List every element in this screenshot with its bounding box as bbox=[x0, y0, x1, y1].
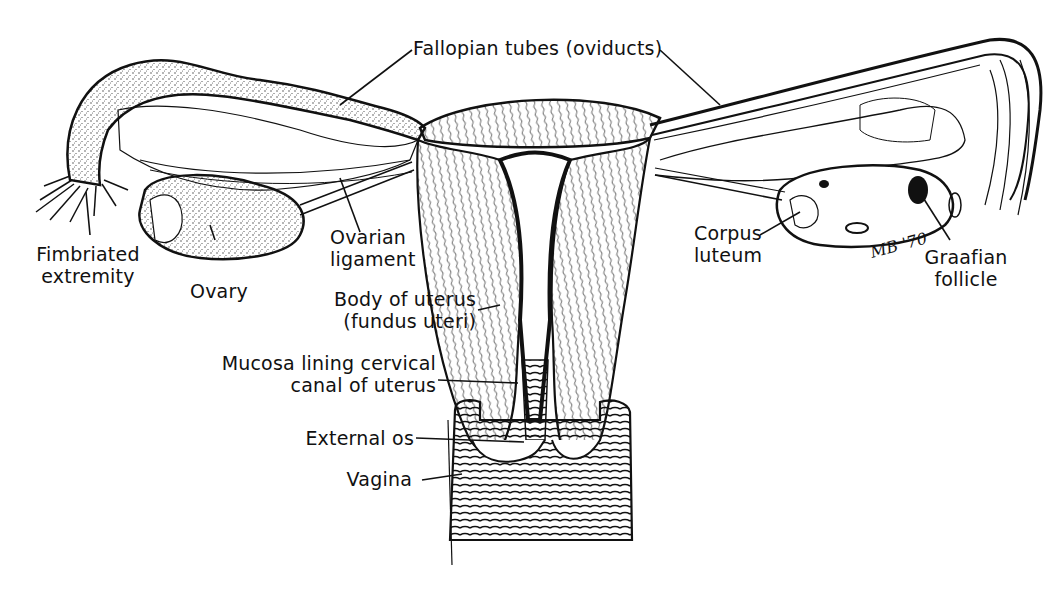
vagina-structure bbox=[450, 400, 632, 540]
label-line-2: extremity bbox=[28, 265, 148, 287]
anatomy-diagram: MB '70 Fallopian tubes (oviducts) bbox=[0, 0, 1060, 592]
label-line-2: ligament bbox=[330, 248, 416, 270]
label-ovary: Ovary bbox=[190, 280, 248, 302]
label-fallopian-tubes: Fallopian tubes (oviducts) bbox=[413, 37, 662, 59]
label-mucosa-lining: Mucosa lining cervical canal of uterus bbox=[200, 352, 436, 396]
label-line-2: (fundus uteri) bbox=[270, 310, 476, 332]
label-ovarian-ligament: Ovarian ligament bbox=[330, 226, 416, 270]
label-line-1: Fimbriated bbox=[28, 243, 148, 265]
label-line-1: Corpus bbox=[690, 222, 766, 244]
label-fimbriated-extremity: Fimbriated extremity bbox=[28, 243, 148, 287]
label-body-of-uterus: Body of uterus (fundus uteri) bbox=[270, 288, 476, 332]
label-line-2: follicle bbox=[918, 268, 1014, 290]
label-line-1: Body of uterus bbox=[270, 288, 476, 310]
reproductive-organs-illustration: MB '70 bbox=[0, 0, 1060, 592]
label-line-1: Graafian bbox=[918, 246, 1014, 268]
label-corpus-luteum: Corpus luteum bbox=[690, 222, 766, 266]
right-ovary bbox=[777, 165, 953, 247]
label-vagina: Vagina bbox=[320, 468, 412, 490]
label-line-1: Ovarian bbox=[330, 226, 416, 248]
label-line-2: luteum bbox=[690, 244, 766, 266]
label-external-os: External os bbox=[290, 427, 414, 449]
label-graafian-follicle: Graafian follicle bbox=[918, 246, 1014, 290]
label-line-1: Mucosa lining cervical bbox=[200, 352, 436, 374]
uterine-fundus bbox=[420, 100, 660, 147]
label-line-2: canal of uterus bbox=[200, 374, 436, 396]
